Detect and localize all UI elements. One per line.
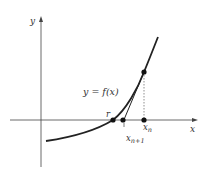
xn1-point (120, 117, 125, 122)
tangent-line (123, 72, 144, 122)
y-axis-label: y (29, 16, 36, 26)
x-axis-label: x (190, 124, 195, 134)
curve-point (141, 69, 146, 74)
y-axis-arrow-icon (39, 16, 43, 22)
curve-label: y = f(x) (82, 86, 119, 97)
newton-method-diagram: y x y = f(x) r xn xn+1 (0, 0, 212, 170)
xn-label: xn (143, 122, 152, 134)
root-label: r (106, 109, 111, 119)
xn1-label: xn+1 (126, 133, 145, 145)
root-point (110, 117, 115, 122)
x-axis-arrow-icon (192, 118, 198, 122)
